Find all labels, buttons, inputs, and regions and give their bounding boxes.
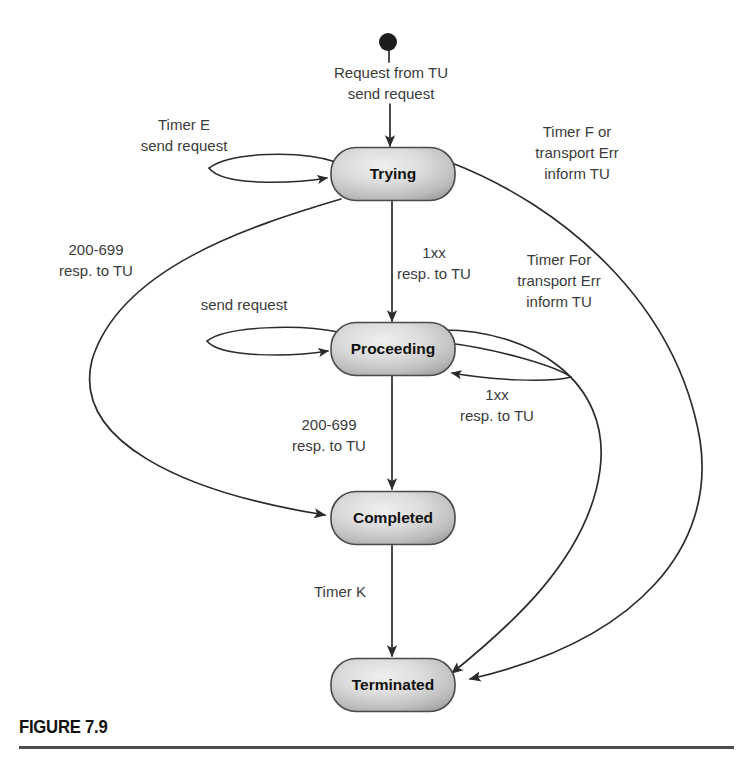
proceeding-label: Proceeding <box>351 340 435 357</box>
trying-loop-lower <box>209 168 327 182</box>
proceeding-loop1-lower <box>207 341 328 355</box>
edge-label-line: Timer E <box>158 116 210 133</box>
edge-label-line: Timer F or <box>543 123 612 140</box>
completed-label: Completed <box>353 509 433 526</box>
edge-label-line: Request from TU <box>334 64 448 81</box>
edge-label-line: transport Err <box>535 144 618 161</box>
edge-label-line: 200-699 <box>301 416 356 433</box>
edge-label-proceeding-self-loop-1xx: 1xx resp. to TU <box>460 386 534 424</box>
edge-label-trying-to-terminated: Timer F or transport Err inform TU <box>535 123 618 182</box>
proceeding-to-terminated-curve <box>443 330 601 673</box>
state-node-trying[interactable]: Trying <box>331 148 455 201</box>
edge-label-trying-to-proceeding: 1xx resp. to TU <box>397 244 471 282</box>
edge-label-line: send request <box>348 85 436 102</box>
state-node-proceeding[interactable]: Proceeding <box>331 323 455 376</box>
terminated-label: Terminated <box>352 676 434 693</box>
edge-label-line: 1xx <box>422 244 446 261</box>
edge-label-proceeding-to-completed: 200-699 resp. to TU <box>292 416 366 454</box>
edge-label-completed-to-terminated: Timer K <box>314 583 366 600</box>
edge-label-line: inform TU <box>526 293 592 310</box>
figure-container: Trying Proceeding Completed Terminated R… <box>0 0 741 766</box>
edge-label-line: resp. to TU <box>292 437 366 454</box>
edge-label-line: send request <box>201 296 289 313</box>
edge-proceeding-to-terminated <box>443 330 601 673</box>
edge-label-trying-self-loop: Timer E send request <box>141 116 229 154</box>
state-diagram: Trying Proceeding Completed Terminated R… <box>0 0 741 714</box>
edge-label-trying-to-completed: 200-699 resp. to TU <box>59 241 133 279</box>
initial-state-dot <box>379 33 397 51</box>
caption-divider <box>19 746 734 749</box>
edge-label-line: send request <box>141 137 229 154</box>
edge-label-proceeding-self-loop-send: send request <box>201 296 289 313</box>
edge-label-line: resp. to TU <box>59 262 133 279</box>
proceeding-loop1-upper <box>207 327 338 341</box>
edge-label-line: Timer For <box>527 251 591 268</box>
trying-label: Trying <box>370 165 417 182</box>
edge-label-line: Timer K <box>314 583 366 600</box>
edge-label-line: inform TU <box>544 165 610 182</box>
trying-to-completed-curve <box>90 199 341 515</box>
state-node-completed[interactable]: Completed <box>331 492 455 545</box>
edge-label-start-to-trying: Request from TU send request <box>334 64 448 102</box>
edge-label-proceeding-to-terminated: Timer For transport Err inform TU <box>517 251 600 310</box>
proceeding-loop2-upper <box>448 343 571 377</box>
edge-label-line: resp. to TU <box>397 265 471 282</box>
edge-label-line: resp. to TU <box>460 407 534 424</box>
edge-proceeding-self-loop-send <box>207 327 338 355</box>
edge-label-line: 200-699 <box>68 241 123 258</box>
edge-trying-self-loop <box>209 154 336 182</box>
figure-caption-area: FIGURE 7.9 <box>0 714 741 766</box>
proceeding-loop2-lower <box>452 373 571 380</box>
trying-loop-upper <box>209 154 336 168</box>
state-node-terminated[interactable]: Terminated <box>331 659 455 712</box>
figure-caption-label: FIGURE 7.9 <box>19 716 107 738</box>
edge-label-line: transport Err <box>517 272 600 289</box>
edge-trying-to-completed <box>90 199 341 515</box>
edge-label-line: 1xx <box>485 386 509 403</box>
